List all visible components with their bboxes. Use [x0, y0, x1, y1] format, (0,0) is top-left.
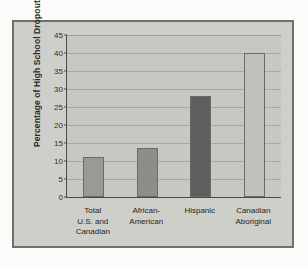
- figure-frame: Percentage of High School Dropouts 05101…: [12, 20, 294, 248]
- y-axis-tick-mark: [64, 35, 67, 36]
- gridline: [67, 35, 281, 36]
- y-axis-title: Percentage of High School Dropouts: [32, 7, 42, 147]
- y-axis-tick-label: 30: [54, 85, 63, 94]
- y-axis-tick-mark: [64, 71, 67, 72]
- y-axis-tick-mark: [64, 89, 67, 90]
- y-axis-tick-label: 0: [59, 193, 63, 202]
- x-axis-category-label: Total U.S. and Canadian: [66, 206, 120, 238]
- y-axis-tick-label: 45: [54, 31, 63, 40]
- y-axis-tick-label: 20: [54, 121, 63, 130]
- y-axis-tick-label: 40: [54, 49, 63, 58]
- x-axis-category-label: Canadian Aboriginal: [227, 206, 281, 227]
- y-axis-tick-mark: [64, 161, 67, 162]
- bar-chart: Percentage of High School Dropouts 05101…: [14, 22, 292, 246]
- x-axis-category-label: African- American: [120, 206, 174, 227]
- bar: [190, 96, 211, 197]
- bar: [244, 53, 265, 197]
- y-axis-tick-mark: [64, 107, 67, 108]
- plot-area: 051015202530354045: [66, 35, 281, 198]
- y-axis-tick-mark: [64, 143, 67, 144]
- bar: [137, 148, 158, 197]
- y-axis-tick-label: 5: [59, 175, 63, 184]
- y-axis-tick-mark: [64, 53, 67, 54]
- y-axis-tick-mark: [64, 125, 67, 126]
- y-axis-tick-label: 25: [54, 103, 63, 112]
- y-axis-tick-mark: [64, 179, 67, 180]
- y-axis-tick-label: 15: [54, 139, 63, 148]
- y-axis-tick-mark: [64, 197, 67, 198]
- x-axis-category-label: Hispanic: [173, 206, 227, 217]
- bar: [83, 157, 104, 197]
- y-axis-tick-label: 35: [54, 67, 63, 76]
- y-axis-tick-label: 10: [54, 157, 63, 166]
